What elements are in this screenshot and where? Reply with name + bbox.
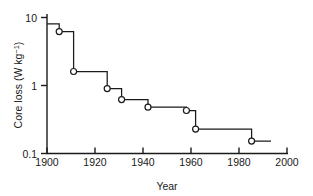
y-tick-label-10: 10: [25, 12, 37, 24]
data-point-marker: [104, 86, 110, 92]
y-tick-labels: 10 1 0.1: [22, 12, 37, 160]
chart-figure: 1900 1920 1940 1960 1980 2000 10 1 0.1 Y…: [0, 0, 313, 196]
data-point-marker: [145, 104, 151, 110]
data-point-marker: [56, 29, 62, 35]
data-point-marker: [249, 138, 255, 144]
y-axis-title-close: ): [12, 42, 24, 46]
data-point-marker: [71, 69, 77, 75]
x-tick-label-1940: 1940: [131, 156, 155, 168]
y-tick-label-1: 1: [31, 80, 37, 92]
y-axis-title-exponent: −1: [12, 45, 21, 54]
x-tick-label-1920: 1920: [83, 156, 107, 168]
data-point-marker: [119, 97, 125, 103]
y-axis-title-base: Core loss (W kg: [12, 54, 24, 129]
x-axis-title: Year: [156, 180, 178, 192]
y-tick-label-0-1: 0.1: [22, 148, 37, 160]
x-tick-label-1900: 1900: [35, 156, 59, 168]
x-tick-label-1960: 1960: [179, 156, 203, 168]
y-axis-title-group: Core loss (W kg−1): [12, 42, 25, 129]
y-tick-marks: [41, 18, 47, 154]
data-step-line-group: [47, 24, 271, 141]
data-point-markers: [56, 29, 254, 145]
data-point-marker: [183, 108, 189, 114]
y-axis-title: Core loss (W kg−1): [12, 42, 25, 129]
x-tick-marks: [47, 148, 287, 154]
x-tick-label-2000: 2000: [275, 156, 299, 168]
x-tick-label-1980: 1980: [227, 156, 251, 168]
data-step-line: [47, 24, 271, 141]
x-tick-labels: 1900 1920 1940 1960 1980 2000: [35, 156, 299, 168]
core-loss-step-chart: 1900 1920 1940 1960 1980 2000 10 1 0.1 Y…: [0, 0, 313, 196]
data-point-marker: [193, 126, 199, 132]
